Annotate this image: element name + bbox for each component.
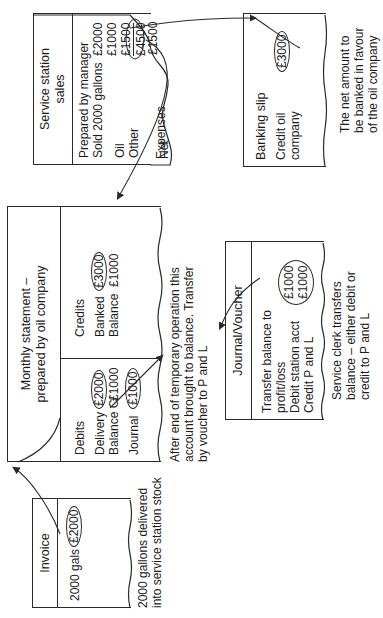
sales-expenses-label: Expenses — [154, 106, 168, 159]
credit-row-label: Banked — [93, 296, 107, 337]
sales-gallons-amount: £2000 — [91, 23, 105, 56]
invoice-line-label: 2000 gals — [68, 549, 82, 601]
invoice-amount: £2000 — [66, 506, 82, 547]
journal-voucher-title: Journal/Voucher — [226, 242, 252, 419]
sales-row-label: Other — [127, 128, 141, 158]
credit-row-amount: £1000 — [107, 254, 121, 287]
monthly-statement-caption: After end of temporary operation this ac… — [168, 267, 210, 462]
invoice-title: Invoice — [33, 499, 58, 607]
sales-row-amount: £1500 — [119, 23, 134, 56]
journal-voucher-amounts: £1000 £1000 — [278, 260, 314, 305]
banking-slip-amount: £3000 — [274, 31, 290, 72]
diagram-canvas: Invoice 2000 gals £2000 2000 gallons del… — [0, 0, 383, 618]
service-station-sales-title: Service station sales — [34, 14, 73, 164]
sales-preparer-text: Prepared by manager Sold 2000 gallons — [77, 42, 105, 158]
banking-slip-caption: The net amount to be banked in favour of… — [338, 28, 380, 133]
banking-slip-title: Banking slip — [254, 93, 268, 160]
service-station-sales-box: Service station sales Prepared by manage… — [33, 13, 151, 165]
debit-row-label: Balance C/ — [107, 396, 121, 455]
sales-expenses-row: Expenses £1500 — [150, 15, 170, 165]
debit-row-amount: £1000 — [107, 368, 121, 401]
journal-voucher-caption: Service clerk transfers balance – either… — [330, 271, 372, 400]
sales-row-amount: £1000 — [105, 23, 119, 56]
debit-row-label: Delivery — [93, 412, 107, 455]
journal-voucher-box: Journal/Voucher Transfer balance to prof… — [225, 241, 324, 420]
monthly-statement-box: Monthly statement – prepared by oil comp… — [7, 206, 161, 462]
banking-slip-box: Banking slip Credit oil company £3000 — [243, 13, 326, 167]
banking-slip-text: Credit oil company — [274, 111, 302, 160]
debit-row-amount: £2000 — [91, 370, 107, 409]
monthly-statement-title: Monthly statement – prepared by oil comp… — [8, 207, 61, 461]
invoice-box: Invoice 2000 gals £2000 — [32, 498, 131, 608]
sales-row-label: Oil — [113, 143, 127, 158]
credit-row-amount: £3000 — [91, 252, 107, 291]
debit-row-amount: £1000 — [125, 368, 141, 409]
debits-heading: Debits — [73, 421, 87, 455]
journal-voucher-text: Transfer balance to profit/loss Debit st… — [260, 310, 316, 413]
invoice-caption: 2000 gallons delivered into service stat… — [136, 477, 164, 608]
credits-heading: Credits — [73, 299, 87, 337]
credit-row-label: Balance — [107, 294, 121, 337]
debit-row-label: Journal — [127, 416, 141, 455]
debit-credit-divider — [61, 358, 161, 359]
sales-expenses-amount: £1500 — [146, 22, 160, 55]
